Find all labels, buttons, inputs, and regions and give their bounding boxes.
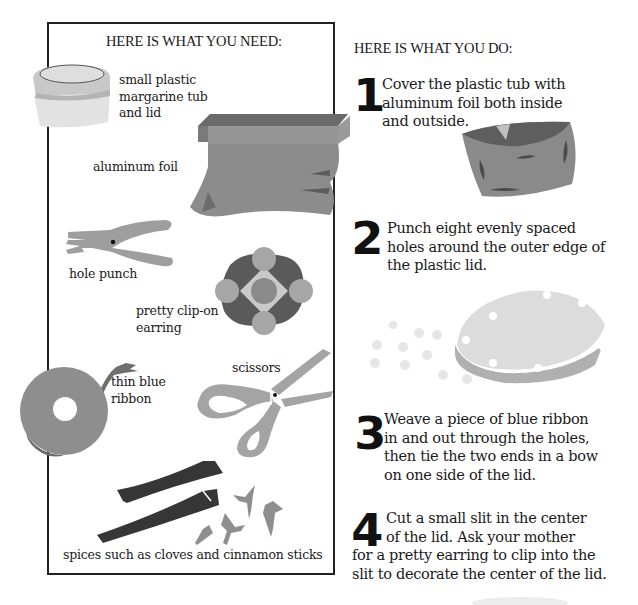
item-label-earring: pretty clip-on earring bbox=[136, 303, 218, 336]
step-number-3: 3 bbox=[354, 414, 386, 454]
needs-heading: HERE IS WHAT YOU NEED: bbox=[106, 33, 282, 50]
scissors-icon bbox=[195, 345, 335, 465]
item-label-hole-punch: hole punch bbox=[69, 266, 137, 283]
step-text-2: Punch eight evenly spaced holes around t… bbox=[387, 219, 605, 275]
earring-icon bbox=[214, 245, 312, 337]
ribbon-spool-icon bbox=[18, 355, 138, 465]
item-label-foil: aluminum foil bbox=[93, 159, 178, 176]
step-number-4: 4 bbox=[351, 511, 383, 551]
hole-punch-icon bbox=[62, 218, 180, 270]
steps-heading: HERE IS WHAT YOU DO: bbox=[354, 40, 512, 57]
aluminum-foil-icon bbox=[190, 112, 355, 220]
step-number-2: 2 bbox=[351, 219, 383, 259]
decorative-shadow-icon bbox=[470, 595, 570, 605]
step-text-4a: Cut a small slit in the center of the li… bbox=[386, 509, 586, 546]
step-text-3: Weave a piece of blue ribbon in and out … bbox=[384, 410, 598, 484]
punched-lid-icon bbox=[365, 285, 615, 390]
step-text-4b: for a pretty earring to clip into the sl… bbox=[352, 546, 607, 583]
margarine-tub-icon bbox=[30, 60, 115, 135]
item-label-ribbon: thin blue ribbon bbox=[111, 374, 166, 407]
spices-icon bbox=[95, 455, 295, 550]
step-number-1: 1 bbox=[353, 76, 385, 116]
foil-covered-tub-icon bbox=[460, 120, 580, 200]
item-label-spices: spices such as cloves and cinnamon stick… bbox=[63, 547, 323, 564]
